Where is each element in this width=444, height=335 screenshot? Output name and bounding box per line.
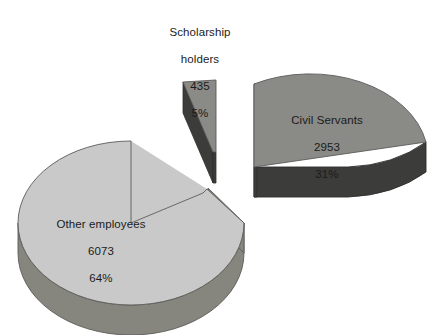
slice-label-civil-value: 2953 [262,141,392,155]
slice-label-scholarship-name-line1: Scholarship [142,26,258,40]
slice-label-civil-percent: 31% [262,168,392,182]
pie-chart-figure: Scholarship holders 435 5% Civil Servant… [0,0,444,335]
slice-scholarship-side-bottom [213,152,216,183]
slice-label-scholarship-value: 435 [142,80,258,94]
slice-label-other-name: Other employees [26,218,176,232]
slice-label-other-percent: 64% [26,272,176,286]
slice-label-scholarship-holders: Scholarship holders 435 5% [142,12,258,134]
slice-label-civil-name: Civil Servants [262,114,392,128]
slice-label-other-value: 6073 [26,245,176,259]
slice-label-civil-servants: Civil Servants 2953 31% [262,100,392,195]
slice-label-other-employees: Other employees 6073 64% [26,204,176,299]
slice-label-scholarship-percent: 5% [142,107,258,121]
slice-label-scholarship-name-line2: holders [142,53,258,67]
